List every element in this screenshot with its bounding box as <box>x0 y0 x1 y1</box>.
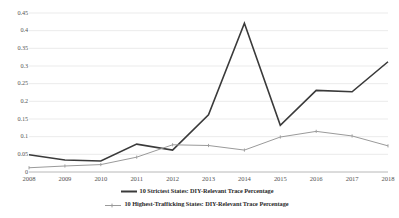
x-axis-tick-label-2011: 2011 <box>117 175 157 183</box>
x-axis-tick-label-2014: 2014 <box>224 175 264 183</box>
y-axis-tick-label: 0.15 <box>4 116 28 122</box>
legend-item-highest-trafficking-states: 10 Highest-Trafficking States: DIY-Relev… <box>0 197 394 210</box>
x-axis-tick-label-2018: 2018 <box>368 175 399 183</box>
legend-label-strictest: 10 Strictest States: DIY-Relevant Trace … <box>140 187 274 194</box>
x-axis-tick-label-2017: 2017 <box>332 175 372 183</box>
y-axis-tick-label: 0.2 <box>4 98 28 104</box>
legend-line-swatch-strictest <box>121 187 137 194</box>
x-axis-tick-label-2012: 2012 <box>153 175 193 183</box>
legend-item-strictest-states: 10 Strictest States: DIY-Relevant Trace … <box>0 184 394 197</box>
series-line-strictest-states <box>29 23 388 161</box>
x-axis-tick-label-2008: 2008 <box>9 175 49 183</box>
plot-svg <box>0 0 394 178</box>
plot-area <box>0 0 394 178</box>
x-axis-tick-label-2016: 2016 <box>296 175 336 183</box>
y-axis-tick-label: 0.4 <box>4 27 28 33</box>
y-axis-tick-label: 0.3 <box>4 63 28 69</box>
legend-line-swatch-trafficking <box>105 200 121 207</box>
y-axis-tick-label: 0.45 <box>4 10 28 16</box>
gridlines <box>29 13 388 172</box>
x-axis-tick-label-2015: 2015 <box>260 175 300 183</box>
x-axis-tick-label-2009: 2009 <box>45 175 85 183</box>
y-axis-tick-label: 0.05 <box>4 151 28 157</box>
y-axis-tick-labels: 00.050.10.150.20.250.30.350.40.45 <box>0 0 28 178</box>
x-axis-tick-label-2010: 2010 <box>81 175 121 183</box>
y-axis-tick-label: 0.25 <box>4 80 28 86</box>
y-axis-tick-label: 0.1 <box>4 133 28 139</box>
chart-legend: 10 Strictest States: DIY-Relevant Trace … <box>0 184 394 218</box>
x-axis-tick-label-2013: 2013 <box>189 175 229 183</box>
series-layer <box>29 23 388 169</box>
legend-label-trafficking: 10 Highest-Trafficking States: DIY-Relev… <box>124 200 288 207</box>
y-axis-tick-label: 0.35 <box>4 45 28 51</box>
